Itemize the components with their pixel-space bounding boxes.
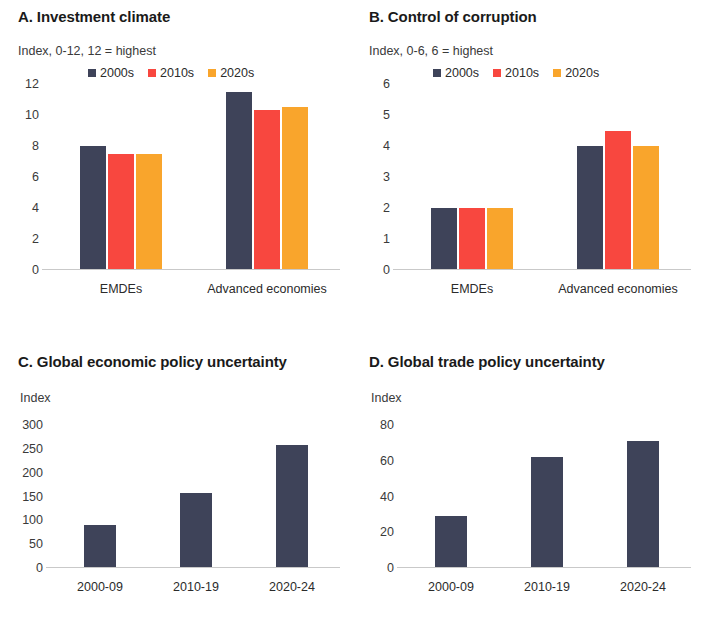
x-axis-group-label: 2020-24	[269, 580, 315, 594]
x-axis-group-label: Advanced economies	[558, 282, 678, 296]
panel-b-title: B. Control of corruption	[369, 8, 537, 25]
y-axis-tick-label: 0	[32, 263, 39, 277]
panel-b-unit-label: Index, 0-6, 6 = highest	[369, 44, 493, 58]
panel-d-axis-line	[397, 567, 691, 568]
y-axis-tick-label: 150	[22, 490, 43, 504]
panel-b-axis-line	[393, 269, 691, 270]
legend-item-2000s: 2000s	[88, 66, 134, 80]
x-axis-group-label: 2000-09	[428, 580, 474, 594]
y-axis-tick-label: 50	[29, 537, 43, 551]
legend-label-2020s: 2020s	[565, 66, 599, 80]
bar	[605, 131, 631, 271]
panel-d-plot: 806040200	[403, 425, 691, 568]
panel-a-axis-line	[42, 269, 340, 270]
y-axis-tick-label: 10	[25, 108, 39, 122]
panel-c-unit-label: Index	[20, 391, 51, 405]
panel-c-bars	[52, 425, 340, 568]
y-axis-tick-label: 1	[383, 232, 390, 246]
panel-b-control-of-corruption: B. Control of corruption Index, 0-6, 6 =…	[355, 0, 701, 330]
panel-c-axis-line	[46, 567, 340, 568]
y-axis-tick-label: 6	[32, 170, 39, 184]
panel-d-bars	[403, 425, 691, 568]
figure-root: A. Investment climate Index, 0-12, 12 = …	[0, 0, 701, 644]
panel-a-unit-label: Index, 0-12, 12 = highest	[18, 44, 156, 58]
bar	[254, 110, 280, 270]
bar	[80, 146, 106, 270]
y-axis-tick-label: 80	[380, 418, 394, 432]
legend-swatch-2000s	[88, 69, 96, 77]
panel-b-plot: 6543210	[399, 84, 691, 270]
x-axis-group-label: 2000-09	[77, 580, 123, 594]
x-axis-group-label: 2020-24	[620, 580, 666, 594]
panel-a-investment-climate: A. Investment climate Index, 0-12, 12 = …	[0, 0, 352, 330]
y-axis-tick-label: 0	[387, 561, 394, 575]
bar	[633, 146, 659, 270]
panel-c-plot: 300250200150100500	[52, 425, 340, 568]
bar	[431, 208, 457, 270]
legend-swatch-2020s	[553, 69, 561, 77]
panel-a-legend: 2000s 2010s 2020s	[88, 66, 254, 80]
legend-label-2010s: 2010s	[160, 66, 194, 80]
legend-swatch-2010s	[148, 69, 156, 77]
legend-label-2010s: 2010s	[505, 66, 539, 80]
y-axis-tick-label: 20	[380, 525, 394, 539]
panel-d-global-trade-policy-uncertainty: D. Global trade policy uncertainty Index…	[355, 345, 701, 644]
panel-d-title: D. Global trade policy uncertainty	[369, 353, 605, 370]
y-axis-tick-label: 0	[383, 263, 390, 277]
y-axis-tick-label: 40	[380, 490, 394, 504]
panel-b-bars	[399, 84, 691, 270]
legend-label-2000s: 2000s	[445, 66, 479, 80]
bar	[459, 208, 485, 270]
legend-swatch-2010s	[493, 69, 501, 77]
y-axis-tick-label: 60	[380, 454, 394, 468]
panel-a-plot: 121086420	[48, 84, 340, 270]
bar	[435, 516, 467, 568]
legend-swatch-2020s	[208, 69, 216, 77]
y-axis-tick-label: 250	[22, 442, 43, 456]
x-axis-group-label: EMDEs	[451, 282, 493, 296]
panel-a-bars	[48, 84, 340, 270]
x-axis-group-label: EMDEs	[100, 282, 142, 296]
bar	[136, 154, 162, 270]
y-axis-tick-label: 4	[383, 139, 390, 153]
bar	[84, 525, 116, 568]
bar	[226, 92, 252, 270]
legend-item-2020s: 2020s	[208, 66, 254, 80]
bar	[531, 457, 563, 568]
bar	[276, 445, 308, 568]
panel-b-legend: 2000s 2010s 2020s	[433, 66, 599, 80]
y-axis-tick-label: 4	[32, 201, 39, 215]
y-axis-tick-label: 5	[383, 108, 390, 122]
x-axis-group-label: Advanced economies	[207, 282, 327, 296]
panel-d-unit-label: Index	[371, 391, 402, 405]
legend-label-2020s: 2020s	[220, 66, 254, 80]
bar	[180, 493, 212, 568]
legend-label-2000s: 2000s	[100, 66, 134, 80]
y-axis-tick-label: 100	[22, 513, 43, 527]
y-axis-tick-label: 2	[383, 201, 390, 215]
panel-c-global-economic-policy-uncertainty: C. Global economic policy uncertainty In…	[0, 345, 352, 644]
legend-item-2010s: 2010s	[493, 66, 539, 80]
bar	[577, 146, 603, 270]
bar	[282, 107, 308, 270]
y-axis-tick-label: 300	[22, 418, 43, 432]
legend-item-2010s: 2010s	[148, 66, 194, 80]
panel-c-title: C. Global economic policy uncertainty	[18, 353, 287, 370]
y-axis-tick-label: 0	[36, 561, 43, 575]
y-axis-tick-label: 6	[383, 77, 390, 91]
bar	[487, 208, 513, 270]
y-axis-tick-label: 3	[383, 170, 390, 184]
bar	[108, 154, 134, 270]
legend-item-2020s: 2020s	[553, 66, 599, 80]
y-axis-tick-label: 12	[25, 77, 39, 91]
x-axis-group-label: 2010-19	[524, 580, 570, 594]
y-axis-tick-label: 8	[32, 139, 39, 153]
y-axis-tick-label: 200	[22, 466, 43, 480]
legend-swatch-2000s	[433, 69, 441, 77]
legend-item-2000s: 2000s	[433, 66, 479, 80]
y-axis-tick-label: 2	[32, 232, 39, 246]
x-axis-group-label: 2010-19	[173, 580, 219, 594]
panel-a-title: A. Investment climate	[18, 8, 170, 25]
bar	[627, 441, 659, 568]
